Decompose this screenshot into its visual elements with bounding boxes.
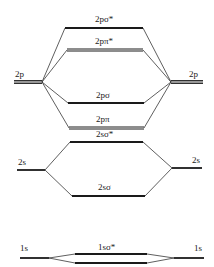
label-2p-sigma-star: 2pσ* bbox=[95, 14, 114, 24]
label-2p-pi: 2pπ bbox=[96, 114, 110, 124]
label-2p-left: 2p bbox=[15, 69, 25, 79]
ao-2p-left-level bbox=[14, 81, 42, 84]
label-2p-pi-star: 2pπ* bbox=[95, 36, 114, 46]
label-2s-sigma-star: 2sσ* bbox=[96, 129, 114, 139]
mo-diagram: 2pσ* 2pπ* 2p 2p 2pσ 2pπ 2sσ* 2s 2s 2sσ 1… bbox=[0, 0, 214, 267]
label-2s-right: 2s bbox=[192, 155, 201, 165]
ao-2p-right-level bbox=[171, 81, 203, 84]
label-1s-left: 1s bbox=[20, 243, 29, 253]
label-2s-left: 2s bbox=[18, 157, 27, 167]
mo-2p-pi-star-level bbox=[67, 49, 143, 51]
label-2p-sigma: 2pσ bbox=[96, 90, 110, 100]
connector-lines-1s bbox=[49, 254, 174, 263]
label-1s-right: 1s bbox=[194, 243, 203, 253]
label-2p-right: 2p bbox=[189, 69, 199, 79]
label-2s-sigma: 2sσ bbox=[98, 182, 111, 192]
label-1s-sigma-star: 1sσ* bbox=[98, 242, 116, 252]
